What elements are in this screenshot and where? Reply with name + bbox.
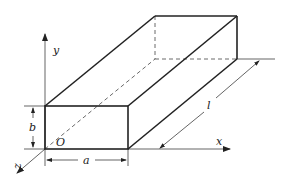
origin-label: O: [56, 136, 65, 149]
z-axis-label: z: [11, 163, 24, 170]
y-axis-label: y: [52, 44, 60, 57]
prism-diagram: y x z O b a l: [0, 0, 288, 184]
prism-edges: [45, 16, 237, 149]
x-axis-label: x: [216, 135, 223, 148]
width-label-a: a: [83, 154, 90, 167]
dimensions: [33, 61, 259, 160]
length-label-l: l: [207, 99, 211, 112]
height-label-b: b: [29, 121, 36, 134]
